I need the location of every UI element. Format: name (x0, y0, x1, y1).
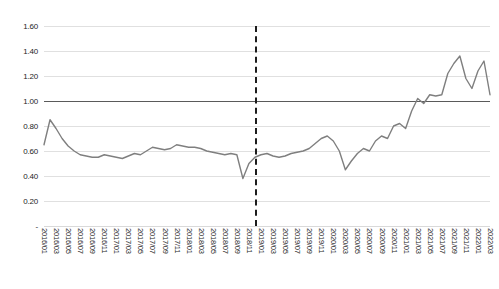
series-layer (44, 26, 490, 226)
x-axis-tick-label: 2020/09 (377, 228, 386, 254)
y-axis-tick-label: 1.20 (0, 72, 38, 81)
y-axis-tick-label: 1.00 (0, 97, 38, 106)
plot-area (44, 26, 490, 226)
x-axis-tick-label: 2017/09 (160, 228, 169, 254)
x-axis-tick-label: 2019/03 (269, 228, 278, 254)
x-axis-tick-label: 2018/01 (184, 228, 193, 254)
chart-container: 1.601.401.201.000.800.600.400.20- 2016/0… (0, 0, 499, 289)
x-axis-tick-label: 2017/07 (148, 228, 157, 254)
x-axis-tick-label: 2020/05 (353, 228, 362, 254)
y-axis-tick-label: 1.40 (0, 47, 38, 56)
x-axis-tick-label: 2021/01 (401, 228, 410, 254)
x-axis-tick-label: 2019/05 (281, 228, 290, 254)
x-axis-tick-label: 2016/01 (40, 228, 49, 254)
x-axis-tick-label: 2021/03 (413, 228, 422, 254)
x-axis-tick-label: 2016/11 (100, 228, 109, 253)
x-axis-tick-label: 2020/03 (341, 228, 350, 254)
x-axis-tick-label: 2021/09 (449, 228, 458, 254)
gridline (44, 226, 490, 227)
x-axis-tick-label: 2018/05 (208, 228, 217, 254)
series-line (44, 26, 490, 226)
x-axis-tick-label: 2019/09 (305, 228, 314, 254)
x-axis-tick-label: 2020/07 (365, 228, 374, 254)
x-axis-labels: 2016/012016/032016/052016/072016/092016/… (44, 228, 490, 289)
x-axis-tick-label: 2018/11 (244, 228, 253, 253)
x-axis-tick-label: 2016/03 (52, 228, 61, 254)
x-axis-tick-label: 2017/01 (112, 228, 121, 254)
y-axis-tick-label: 0.60 (0, 147, 38, 156)
x-axis-tick-label: 2017/05 (136, 228, 145, 254)
x-axis-tick-label: 2018/09 (232, 228, 241, 254)
x-axis-tick-label: 2022/03 (486, 228, 495, 254)
x-axis-tick-label: 2016/05 (64, 228, 73, 254)
x-axis-tick-label: 2019/01 (256, 228, 265, 254)
x-axis-tick-label: 2019/07 (293, 228, 302, 254)
x-axis-tick-label: 2020/11 (389, 228, 398, 253)
x-axis-tick-label: 2018/03 (196, 228, 205, 254)
y-axis-tick-label: 0.20 (0, 197, 38, 206)
y-axis-tick-label: - (0, 222, 38, 231)
x-axis-tick-label: 2022/01 (473, 228, 482, 254)
x-axis-tick-label: 2017/11 (172, 228, 181, 253)
x-axis-tick-label: 2018/07 (220, 228, 229, 254)
x-axis-tick-label: 2019/11 (317, 228, 326, 253)
x-axis-tick-label: 2021/11 (461, 228, 470, 253)
y-axis-labels: 1.601.401.201.000.800.600.400.20- (0, 0, 44, 289)
x-axis-tick-label: 2021/07 (437, 228, 446, 254)
y-axis-tick-label: 0.40 (0, 172, 38, 181)
x-axis-tick-label: 2021/05 (425, 228, 434, 254)
y-axis-tick-label: 1.60 (0, 22, 38, 31)
x-axis-tick-label: 2017/03 (124, 228, 133, 254)
x-axis-tick-label: 2016/07 (76, 228, 85, 254)
y-axis-tick-label: 0.80 (0, 122, 38, 131)
x-axis-tick-label: 2020/01 (329, 228, 338, 254)
x-axis-tick-label: 2016/09 (88, 228, 97, 254)
